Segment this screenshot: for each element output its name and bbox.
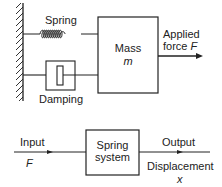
force-arrow-icon (158, 53, 203, 59)
input-symbol: F (26, 157, 33, 169)
input-label: Input (20, 136, 44, 148)
force-symbol: F (191, 40, 198, 52)
spring-icon (23, 30, 98, 38)
mass-symbol: m (98, 55, 158, 67)
spring-label: Spring (45, 14, 77, 26)
input-arrow-icon (14, 150, 86, 154)
fixed-wall (16, 3, 23, 101)
displacement-symbol: x (177, 173, 183, 185)
block-label-line2: system (86, 151, 139, 163)
output-arrow-icon (139, 150, 210, 154)
output-label: Output (162, 136, 195, 148)
displacement-label: Displacement (147, 160, 214, 172)
block-label-line1: Spring (86, 139, 139, 151)
applied-force-label-line1: Applied (163, 28, 200, 40)
damping-label: Damping (39, 93, 83, 105)
mass-label: Mass (98, 42, 158, 54)
force-label: force (163, 40, 187, 52)
applied-force-label-line2: force F (163, 40, 197, 52)
damper-icon (23, 61, 98, 90)
